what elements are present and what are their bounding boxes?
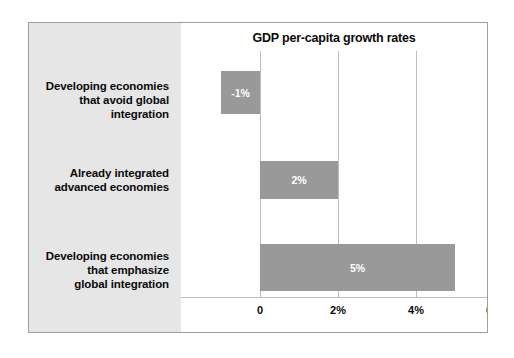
category-label-2: Developing economies that emphasize glob… xyxy=(29,249,169,291)
x-tick-label-2: 4% xyxy=(396,304,436,316)
category-label-0-line-0: Developing economies xyxy=(29,79,169,93)
x-tick-label-1: 2% xyxy=(318,304,358,316)
x-tick-label-3: 6% xyxy=(474,304,487,316)
category-label-panel: Developing economies that avoid global i… xyxy=(29,23,181,332)
bar-value-label-1: 2% xyxy=(291,174,306,186)
chart-figure: Developing economies that avoid global i… xyxy=(28,22,488,333)
category-label-1-line-0: Already integrated xyxy=(29,166,169,180)
bar-value-label-2: 5% xyxy=(350,262,365,274)
category-label-2-line-1: that emphasize xyxy=(29,263,169,277)
category-label-2-line-2: global integration xyxy=(29,277,169,291)
category-label-0-line-2: integration xyxy=(29,107,169,121)
category-label-1-line-1: advanced economies xyxy=(29,180,169,194)
x-axis-baseline xyxy=(181,297,487,298)
plot-area: GDP per-capita growth rates -1%2%5% 02%4… xyxy=(181,23,487,332)
category-label-0: Developing economies that avoid global i… xyxy=(29,79,169,121)
category-label-2-line-0: Developing economies xyxy=(29,249,169,263)
category-label-1: Already integrated advanced economies xyxy=(29,166,169,194)
chart-title: GDP per-capita growth rates xyxy=(181,31,487,45)
x-tick-label-0: 0 xyxy=(240,304,280,316)
category-label-0-line-1: that avoid global xyxy=(29,93,169,107)
bar-value-label-0: -1% xyxy=(231,87,250,99)
